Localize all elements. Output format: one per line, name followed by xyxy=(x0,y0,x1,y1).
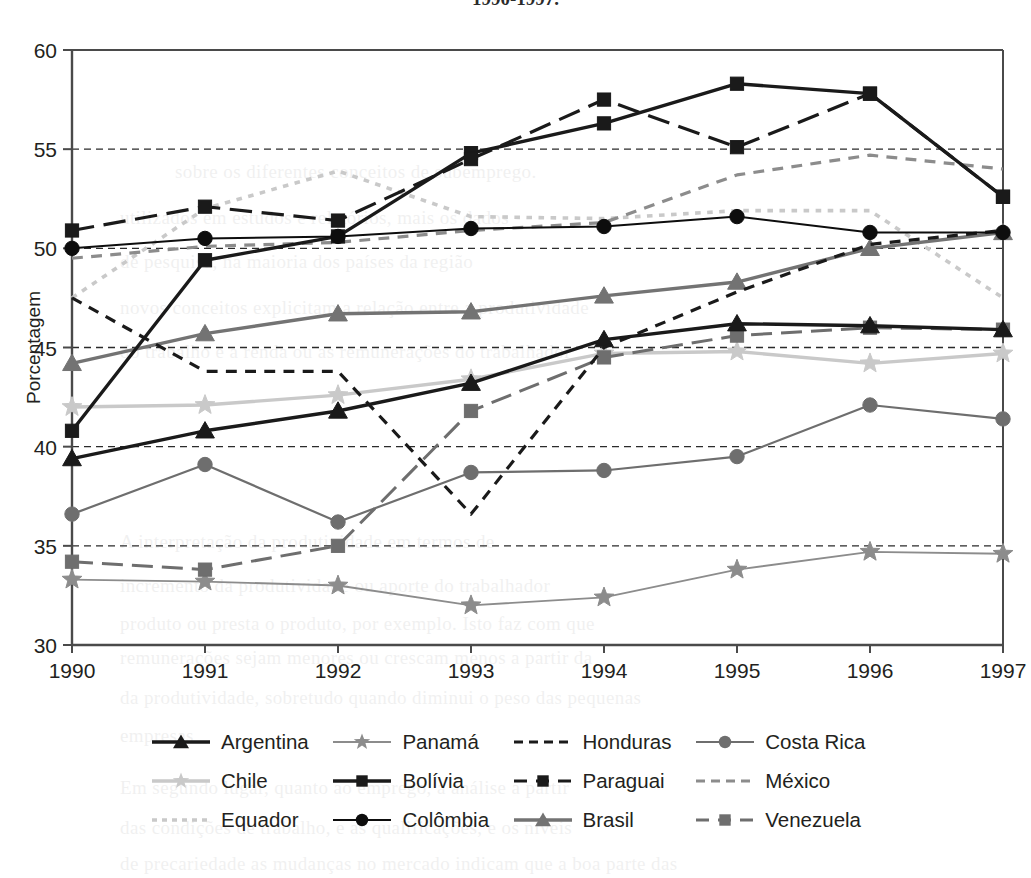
data-point xyxy=(331,539,344,552)
x-axis-tick-label: 1991 xyxy=(182,659,229,682)
data-point xyxy=(597,351,610,364)
legend-row: EquadorColômbiaBrasilVenezuela xyxy=(150,800,890,839)
legend-label: Equador xyxy=(221,808,299,832)
legend-item-equador[interactable]: Equador xyxy=(150,800,331,839)
data-point xyxy=(195,395,215,414)
data-point xyxy=(65,555,78,568)
legend-item-venezuela[interactable]: Venezuela xyxy=(694,800,890,839)
legend-label: Brasil xyxy=(583,808,634,832)
x-axis-tick-label: 1997 xyxy=(980,659,1027,682)
x-axis-tick-label: 1993 xyxy=(448,659,495,682)
chart-legend: ArgentinaPanamáHondurasCosta RicaChileBo… xyxy=(150,722,890,839)
legend-label: México xyxy=(765,769,830,793)
data-point xyxy=(328,575,348,594)
legend-key-mexico xyxy=(694,772,756,790)
data-point xyxy=(730,209,744,223)
series-costa-rica xyxy=(65,398,1010,529)
legend-table: ArgentinaPanamáHondurasCosta RicaChileBo… xyxy=(150,722,890,839)
legend-key-equador xyxy=(150,811,212,829)
y-axis-tick-label: 30 xyxy=(34,634,57,657)
data-point xyxy=(730,77,743,90)
series-panam- xyxy=(62,541,1013,613)
data-point xyxy=(65,507,79,521)
data-point xyxy=(198,457,212,471)
legend-marker xyxy=(173,772,189,788)
data-point xyxy=(464,152,477,165)
x-axis-tick-label: 1992 xyxy=(315,659,362,682)
legend-label: Chile xyxy=(221,769,268,793)
legend-row: ArgentinaPanamáHondurasCosta Rica xyxy=(150,722,890,761)
x-axis-tick-label: 1994 xyxy=(581,659,628,682)
legend-item-panam-[interactable]: Panamá xyxy=(331,722,511,761)
legend-marker xyxy=(719,735,731,747)
y-axis-tick-label: 60 xyxy=(34,39,57,62)
legend-key-venezuela xyxy=(694,811,756,829)
data-point xyxy=(996,412,1010,426)
legend-key-colombia xyxy=(331,811,393,829)
data-point xyxy=(860,541,880,560)
y-axis-tick-label: 40 xyxy=(34,436,57,459)
legend-item-col-mbia[interactable]: Colômbia xyxy=(331,800,511,839)
data-point xyxy=(597,463,611,477)
data-point xyxy=(727,341,747,360)
legend-item-costa-rica[interactable]: Costa Rica xyxy=(694,722,890,761)
legend-marker xyxy=(537,775,548,786)
legend-label: Panamá xyxy=(402,730,478,754)
data-point xyxy=(863,398,877,412)
legend-item-argentina[interactable]: Argentina xyxy=(150,722,331,761)
data-point xyxy=(331,229,345,243)
data-point xyxy=(597,219,611,233)
data-point xyxy=(65,241,79,255)
legend-key-argentina xyxy=(150,733,212,751)
data-point xyxy=(198,254,211,267)
legend-marker xyxy=(354,733,370,749)
data-point xyxy=(863,87,876,100)
data-point xyxy=(328,385,348,404)
data-point xyxy=(464,465,478,479)
legend-key-honduras xyxy=(512,733,574,751)
legend-label: Colômbia xyxy=(402,808,489,832)
x-axis-tick-label: 1996 xyxy=(847,659,894,682)
data-point xyxy=(594,587,614,606)
data-point xyxy=(727,559,747,578)
data-point xyxy=(198,200,211,213)
legend-label: Venezuela xyxy=(765,808,861,832)
data-point xyxy=(331,515,345,529)
legend-label: Costa Rica xyxy=(765,730,865,754)
legend-marker xyxy=(720,814,731,825)
legend-item-bol-via[interactable]: Bolívia xyxy=(331,761,511,800)
legend-key-costa-rica xyxy=(694,733,756,751)
legend-label: Bolívia xyxy=(402,769,464,793)
legend-marker xyxy=(357,775,368,786)
y-axis-tick-label: 35 xyxy=(34,535,57,558)
legend-item-m-xico[interactable]: México xyxy=(694,761,890,800)
x-axis-tick-label: 1995 xyxy=(714,659,761,682)
legend-label: Honduras xyxy=(583,730,672,754)
legend-marker xyxy=(356,813,368,825)
legend-item-paraguai[interactable]: Paraguai xyxy=(512,761,695,800)
legend-key-brasil xyxy=(512,811,574,829)
legend-label: Argentina xyxy=(221,730,309,754)
series-paraguai xyxy=(65,87,1009,237)
legend-key-paraguai xyxy=(512,772,574,790)
data-point xyxy=(464,404,477,417)
legend-key-chile xyxy=(150,772,212,790)
data-point xyxy=(597,93,610,106)
legend-item-brasil[interactable]: Brasil xyxy=(512,800,695,839)
legend-item-honduras[interactable]: Honduras xyxy=(512,722,695,761)
data-point xyxy=(996,225,1010,239)
legend-label: Paraguai xyxy=(583,769,665,793)
line-chart-plot: 30354045505560Porcentagem199019911992199… xyxy=(0,0,1031,700)
legend-item-chile[interactable]: Chile xyxy=(150,761,331,800)
data-point xyxy=(464,221,478,235)
y-axis-label: Porcentagem xyxy=(23,291,44,404)
data-point xyxy=(461,595,481,614)
data-point xyxy=(65,224,78,237)
data-point xyxy=(198,563,211,576)
data-point xyxy=(863,225,877,239)
data-point xyxy=(730,449,744,463)
x-axis-tick-label: 1990 xyxy=(49,659,96,682)
legend-key-panama xyxy=(331,733,393,751)
y-axis-tick-label: 50 xyxy=(34,237,57,260)
